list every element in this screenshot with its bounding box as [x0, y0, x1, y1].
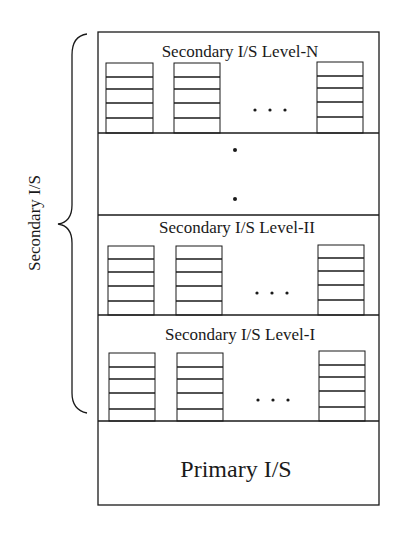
storage-stack [177, 353, 223, 421]
ellipsis-horizontal-icon [253, 108, 286, 111]
storage-stack [319, 351, 365, 421]
ellipsis-vertical-icon [233, 148, 237, 201]
primary-title: Primary I/S [180, 456, 291, 482]
curly-brace-icon [58, 34, 87, 413]
storage-stack [174, 63, 220, 133]
secondary-side-label: Secondary I/S [25, 175, 44, 271]
storage-stack [108, 246, 154, 315]
storage-stack [318, 245, 364, 315]
storage-hierarchy-diagram: Secondary I/S Level-N [0, 0, 402, 535]
level-n-title: Secondary I/S Level-N [162, 42, 319, 61]
level-ii-section: Secondary I/S Level-II [108, 218, 364, 315]
storage-stack [317, 62, 363, 133]
ellipsis-horizontal-icon [255, 291, 288, 294]
storage-stack [109, 353, 155, 421]
ellipsis-horizontal-icon [256, 398, 289, 401]
level-n-section: Secondary I/S Level-N [106, 42, 363, 133]
level-i-section: Secondary I/S Level-I [109, 325, 365, 421]
level-ii-title: Secondary I/S Level-II [159, 218, 315, 237]
storage-stack [106, 63, 153, 133]
level-i-title: Secondary I/S Level-I [165, 325, 315, 344]
storage-stack [176, 246, 222, 315]
